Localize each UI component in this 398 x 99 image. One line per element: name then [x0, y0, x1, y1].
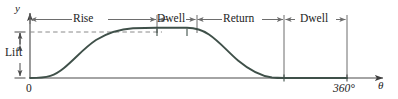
displacement-curve	[30, 28, 347, 78]
x-tick-label-origin: 0	[26, 83, 32, 95]
segment-label-return: Return	[223, 13, 254, 25]
reference-verticals	[30, 15, 347, 79]
segment-label-dwell-top: Dwell	[157, 13, 185, 25]
lift-label: Lift	[5, 47, 22, 59]
segment-label-dwell-end: Dwell	[300, 13, 328, 25]
segment-label-rise: Rise	[73, 13, 93, 25]
y-axis-label: y	[15, 3, 20, 14]
x-axis-label: θ	[378, 80, 383, 91]
cam-displacement-diagram: y θ 0 360° Lift Rise Dwell Return Dwell	[0, 0, 398, 99]
x-tick-label-360: 360°	[333, 83, 355, 95]
